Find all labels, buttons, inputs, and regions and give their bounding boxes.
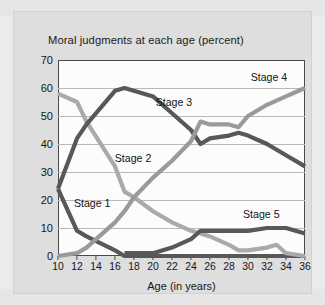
series-label: Stage 1: [74, 197, 111, 209]
x-tick-label: 22: [166, 261, 178, 272]
x-axis-label: Age (in years): [58, 280, 305, 292]
y-tick-label: 40: [41, 138, 53, 150]
y-tick-label: 70: [41, 54, 53, 66]
x-tick-label: 18: [128, 261, 140, 272]
x-tick-label: 12: [71, 261, 83, 272]
line-series: [58, 94, 305, 256]
y-tick-label: 10: [41, 222, 53, 234]
x-tick-label: 34: [280, 261, 292, 272]
chart-title: Moral judgments at each age (percent): [48, 34, 244, 46]
x-tick-label: 36: [299, 261, 311, 272]
y-tick-label: 50: [41, 110, 53, 122]
chart-card: Moral judgments at each age (percent) 01…: [14, 12, 311, 293]
x-tick-label: 14: [90, 261, 102, 272]
y-tick-label: 20: [41, 194, 53, 206]
series-label: Stage 2: [115, 152, 152, 164]
x-tick-label: 30: [242, 261, 254, 272]
x-tick-label: 16: [109, 261, 121, 272]
y-tick-label: 60: [41, 82, 53, 94]
x-tick-mark: [76, 256, 77, 260]
x-tick-label: 28: [223, 261, 235, 272]
x-tick-label: 26: [204, 261, 216, 272]
series-lines: [58, 60, 305, 256]
x-tick-label: 32: [261, 261, 273, 272]
series-label: Stage 4: [251, 71, 288, 83]
y-tick-label: 30: [41, 166, 53, 178]
x-tick-label: 24: [185, 261, 197, 272]
plot-wrapper: 010203040506070 101214161820222426283032…: [58, 60, 305, 256]
x-tick-label: 10: [52, 261, 64, 272]
x-tick-mark: [95, 256, 96, 260]
x-tick-label: 20: [147, 261, 159, 272]
chart-page: Moral judgments at each age (percent) 01…: [0, 0, 325, 305]
series-label: Stage 5: [243, 208, 280, 220]
x-tick-mark: [114, 256, 115, 260]
series-label: Stage 3: [156, 96, 193, 108]
